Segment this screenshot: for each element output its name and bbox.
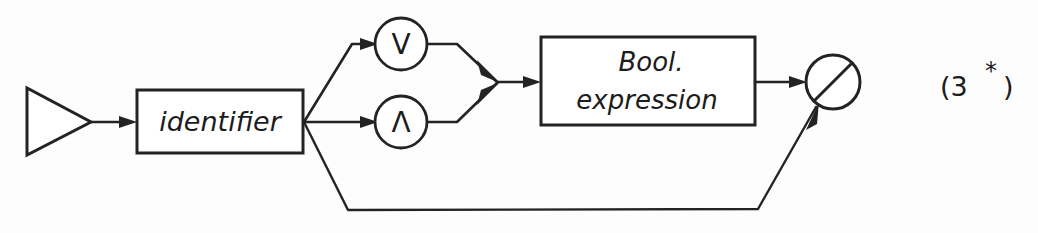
arrowhead-merge-from-or-icon — [477, 60, 500, 83]
or-operator-label: V — [391, 28, 410, 61]
arrowhead-bypass-into-end-icon — [806, 102, 819, 130]
start-triangle — [27, 88, 91, 155]
syntax-diagram-canvas: identifier V Λ — [0, 0, 1038, 233]
end-crossed-circle — [806, 55, 860, 109]
identifier-box: identifier — [137, 90, 303, 153]
arrowhead-into-identifier-icon — [119, 116, 137, 128]
edge-merge-to-bool — [497, 76, 541, 88]
edge-identifier-to-or — [304, 38, 378, 122]
and-operator-circle: Λ — [375, 96, 427, 148]
bool-expression-box: Bool. expression — [541, 37, 755, 125]
and-operator-label: Λ — [391, 106, 410, 139]
rule-number-open: (3 — [940, 71, 968, 102]
identifier-box-label: identifier — [159, 106, 283, 137]
edge-or-to-merge — [427, 44, 500, 83]
syntax-diagram: identifier V Λ — [0, 0, 1038, 233]
arrowhead-merge-from-and-icon — [477, 82, 500, 105]
or-operator-circle: V — [375, 18, 427, 70]
edge-and-to-merge — [427, 82, 500, 122]
rule-number: (3 * ) — [940, 57, 1014, 102]
edge-bool-to-end — [755, 76, 807, 88]
bool-expression-line-2: expression — [576, 85, 717, 115]
start-triangle-shape — [27, 88, 91, 155]
edge-start-to-identifier — [91, 116, 137, 128]
bool-expression-line-1: Bool. — [618, 47, 683, 77]
arrowhead-into-bool-icon — [523, 76, 541, 88]
arrowhead-into-end-icon — [789, 76, 807, 88]
rule-number-star: * — [985, 57, 997, 85]
rule-number-close: ) — [1003, 71, 1014, 102]
edge-identifier-to-and — [304, 116, 378, 128]
edge-identifier-to-or-line — [304, 44, 372, 122]
